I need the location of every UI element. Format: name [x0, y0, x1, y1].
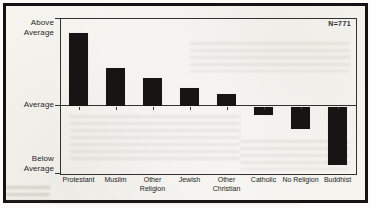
bar-no-religion	[291, 107, 310, 129]
category-tick-jewish	[190, 107, 191, 110]
bar-jewish	[180, 88, 199, 106]
category-tick-no-religion	[301, 107, 302, 110]
bar-buddhist	[328, 107, 347, 165]
category-label-buddhist: Buddhist	[312, 176, 364, 185]
category-tick-other-christian	[227, 107, 228, 110]
below-average-label-line: Average	[0, 164, 54, 174]
sample-size-annotation: N=771	[328, 20, 351, 27]
category-label-line: Religion	[127, 185, 179, 194]
bar-muslim	[106, 68, 125, 106]
below-average-label-line: Below	[0, 154, 54, 164]
average-label: Average	[0, 100, 54, 110]
plot-box-right-line	[356, 18, 357, 175]
above-average-label: AboveAverage	[0, 18, 54, 38]
bar-protestant	[69, 33, 88, 106]
category-tick-catholic	[264, 107, 265, 110]
above-average-label-line: Average	[0, 28, 54, 38]
category-tick-protestant	[79, 107, 80, 110]
below-average-label: BelowAverage	[0, 154, 54, 174]
plot-area	[60, 18, 356, 174]
bar-other-religion	[143, 78, 162, 106]
scanned-bar-chart-figure: AboveAverageAverageBelowAverage Protesta…	[0, 0, 371, 208]
category-label-line: Buddhist	[312, 176, 364, 185]
category-label-line: Christian	[201, 185, 253, 194]
average-label-line: Average	[0, 100, 54, 110]
bar-other-christian	[217, 94, 236, 106]
plot-box-bottom-line	[60, 174, 357, 175]
category-tick-muslim	[116, 107, 117, 110]
above-average-label-line: Above	[0, 18, 54, 28]
category-tick-buddhist	[338, 107, 339, 110]
category-tick-other-religion	[153, 107, 154, 110]
